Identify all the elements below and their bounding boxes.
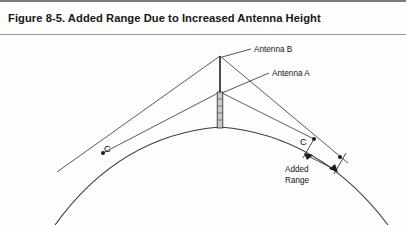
added-range-arrowhead-right [329,164,338,172]
label-added-range-line1: Added [285,165,309,176]
figure-panel: Figure 8-5. Added Range Due to Increased… [0,0,406,225]
label-antenna-b: Antenna B [254,45,292,54]
antenna-range-diagram [0,0,406,225]
horizon-point-right-antenna-b [338,155,342,159]
label-added-range-line2: Range [285,176,309,187]
added-range-arrowhead-left [304,153,313,160]
label-c-right: C [300,136,307,147]
sight-line-antenna-b-left [57,56,220,172]
earth-horizon-arc [55,127,388,225]
leader-line-antenna-a [222,73,269,93]
sight-line-antenna-a-left [103,92,220,153]
leader-line-antenna-b [222,49,251,57]
label-c-left: C [104,143,111,154]
label-added-range: Added Range [285,165,309,186]
mast-lower-hatched-section [217,92,223,128]
sight-line-antenna-a-right [220,92,314,139]
label-antenna-a: Antenna A [272,69,310,78]
